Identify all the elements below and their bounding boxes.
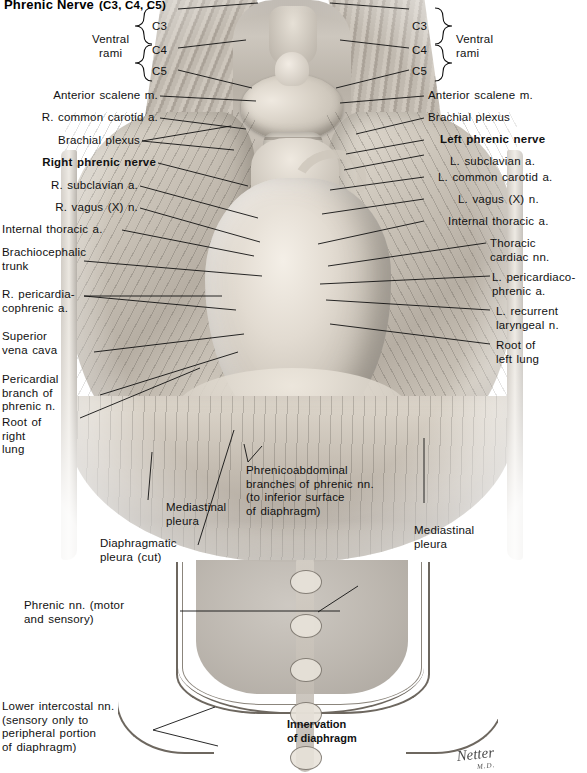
label-diaphragmatic-pleura-cut: Diaphragmatic pleura (cut) — [100, 537, 177, 564]
label-brachiocephalic-trunk: Brachiocephalic trunk — [2, 246, 86, 273]
page-title-main: Phrenic Nerve — [4, 0, 94, 12]
lower-panel-caption: Innervation of diaphragm — [287, 718, 357, 745]
ventral-rami-label-right: Ventral rami — [456, 33, 493, 60]
vertebral-segment — [290, 658, 322, 682]
label-brachial-plexus-right: Brachial plexus — [428, 111, 510, 125]
label-l-pericardiacophrenic-a: L. pericardiaco- phrenic a. — [492, 271, 575, 298]
label-r-vagus-x-n: R. vagus (X) n. — [0, 201, 138, 215]
label-root-of-right-lung: Root of right lung — [2, 416, 41, 457]
label-r-common-carotid-a: R. common carotid a. — [0, 111, 158, 125]
ventral-rami-label-left: Ventral rami — [92, 33, 129, 60]
page-title-roots: (C3, C4, C5) — [99, 0, 166, 11]
label-anterior-scalene-m: Anterior scalene m. — [0, 89, 158, 103]
root-label-c3-left: C3 — [152, 20, 167, 34]
label-mediastinal-pleura-right: Mediastinal pleura — [414, 524, 474, 551]
label-l-common-carotid-a: L. common carotid a. — [438, 171, 552, 185]
label-left-phrenic-nerve: Left phrenic nerve — [440, 133, 545, 147]
label-lower-intercostal-nn: Lower intercostal nn. (sensory only to p… — [2, 700, 114, 754]
label-r-subclavian-a: R. subclavian a. — [0, 179, 138, 193]
label-right-phrenic-nerve: Right phrenic nerve — [0, 156, 156, 170]
label-l-subclavian-a: L. subclavian a. — [450, 155, 535, 169]
vertebral-segment — [290, 570, 322, 594]
right-costal-flare — [406, 678, 498, 754]
label-superior-vena-cava: Superior vena cava — [2, 330, 57, 357]
root-label-c4-left: C4 — [152, 44, 167, 58]
label-mediastinal-pleura-left: Mediastinal pleura — [166, 501, 226, 528]
page-title: Phrenic Nerve(C3, C4, C5) — [4, 0, 166, 12]
vertebral-segment — [290, 746, 322, 770]
root-label-c5-left: C5 — [152, 65, 167, 79]
label-thoracic-cardiac-nn: Thoracic cardiac nn. — [490, 237, 549, 264]
label-pericardial-branch-of-phrenic-n: Pericardial branch of phrenic n. — [2, 373, 59, 414]
netter-plate-phrenic-nerve: NetterM.D. — [0, 0, 587, 773]
label-brachial-plexus: Brachial plexus — [0, 134, 140, 148]
label-internal-thoracic-a: Internal thoracic a. — [2, 223, 103, 237]
artist-signature: NetterM.D. — [455, 744, 495, 773]
label-phrenic-nn-motor-and-sensory: Phrenic nn. (motor and sensory) — [24, 599, 124, 626]
label-l-vagus-x-n: L. vagus (X) n. — [458, 193, 539, 207]
vertebral-segment — [290, 614, 322, 638]
label-internal-thoracic-a-left: Internal thoracic a. — [448, 215, 549, 229]
label-r-pericardiacophrenic-a: R. pericardia- cophrenic a. — [2, 288, 75, 315]
left-costal-flare — [118, 678, 214, 754]
root-label-c3-right: C3 — [412, 20, 427, 34]
label-root-of-left-lung: Root of left lung — [496, 339, 539, 366]
root-label-c5-right: C5 — [412, 65, 427, 79]
label-anterior-scalene-m-right: Anterior scalene m. — [428, 89, 533, 103]
label-l-recurrent-laryngeal-n: L. recurrent laryngeal n. — [496, 305, 559, 332]
root-label-c4-right: C4 — [412, 44, 427, 58]
label-phrenicoabdominal-branches: Phrenicoabdominal branches of phrenic nn… — [246, 464, 374, 518]
